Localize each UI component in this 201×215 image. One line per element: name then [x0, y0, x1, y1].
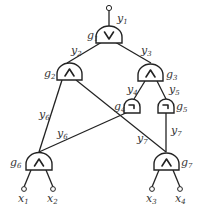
- wire-x1: [24, 170, 31, 187]
- input-terminal-x2: [51, 187, 56, 192]
- wire-x4: [173, 170, 180, 187]
- gate-g4: [124, 99, 140, 113]
- label-x2: x2: [47, 192, 58, 206]
- wire-x3: [152, 170, 159, 187]
- label-y1: y1: [116, 12, 128, 26]
- gate-g2: [57, 63, 82, 80]
- circuit-diagram: y1 g1 g2 g3 g4 g5 g6 g7 y2 y3 y4 y5 y6 y…: [0, 0, 201, 215]
- label-y5: y5: [168, 83, 180, 97]
- label-y2: y2: [70, 44, 82, 58]
- wire-y5: [157, 81, 166, 99]
- label-g6: g6: [10, 156, 22, 170]
- label-y7-b: y7: [170, 124, 182, 138]
- gate-g1: [96, 26, 122, 43]
- label-x1: x1: [18, 192, 29, 206]
- label-x3: x3: [146, 192, 157, 206]
- label-y3: y3: [140, 44, 152, 58]
- gate-g6: [26, 153, 52, 170]
- label-y6-b: y6: [56, 127, 68, 141]
- label-g1: g1: [87, 29, 99, 43]
- label-x4: x4: [175, 192, 186, 206]
- wire-y6-b: [39, 112, 128, 152]
- label-g5: g5: [176, 100, 188, 114]
- input-terminal-x3: [150, 187, 155, 192]
- gate-g7: [154, 153, 179, 170]
- input-terminal-x4: [178, 187, 183, 192]
- wire-y7-a: [76, 80, 166, 152]
- label-y7-a: y7: [136, 132, 148, 146]
- wire-x2: [46, 170, 53, 187]
- label-g2: g2: [44, 67, 56, 81]
- label-g7: g7: [181, 156, 193, 170]
- label-y6-a: y6: [38, 108, 50, 122]
- output-terminal: [106, 5, 111, 10]
- label-g4: g4: [114, 100, 126, 114]
- gate-g3: [138, 64, 163, 81]
- label-y4: y4: [126, 83, 138, 97]
- input-terminal-x1: [22, 187, 27, 192]
- gate-g5: [158, 99, 174, 113]
- label-g3: g3: [166, 68, 178, 82]
